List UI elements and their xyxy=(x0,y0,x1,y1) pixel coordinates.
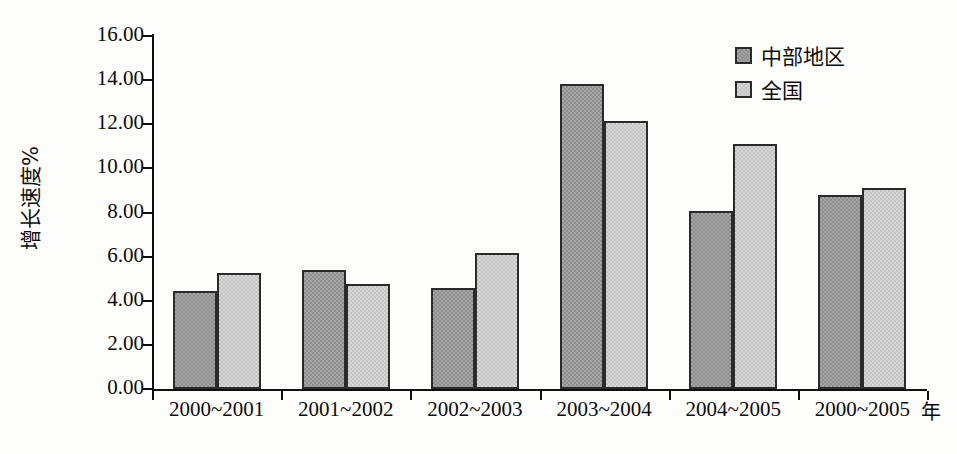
x-axis-tick-label: 2004~2005 xyxy=(669,397,798,422)
bar xyxy=(862,188,906,389)
y-axis-tick-mark xyxy=(143,35,153,37)
bar xyxy=(604,121,648,390)
y-axis-tick-label: 10.00 xyxy=(48,154,144,179)
y-axis-tick-mark xyxy=(143,79,153,81)
bar-chart: 增长速度% 0.002.004.006.008.0010.0012.0014.0… xyxy=(0,0,957,454)
legend-swatch-icon xyxy=(735,47,752,64)
bar xyxy=(302,270,346,389)
y-axis-title: 增长速度% xyxy=(14,118,48,278)
y-axis-tick-mark xyxy=(143,300,153,302)
y-axis-tick-label: 4.00 xyxy=(48,287,144,312)
y-axis-tick-mark xyxy=(143,123,153,125)
x-axis-tick-label: 2000~2005 xyxy=(798,397,927,422)
y-axis-tick-mark xyxy=(143,256,153,258)
legend: 中部地区全国 xyxy=(735,38,845,106)
y-axis-tick-label: 6.00 xyxy=(48,243,144,268)
y-axis-tick-label: 16.00 xyxy=(48,22,144,47)
y-axis-tick-label: 12.00 xyxy=(48,110,144,135)
y-axis-tick-label: 14.00 xyxy=(48,66,144,91)
bar xyxy=(346,284,390,389)
x-axis-tick-label: 2002~2003 xyxy=(410,397,539,422)
bar xyxy=(560,84,604,389)
x-axis-unit-label: 年 xyxy=(921,396,941,425)
y-axis-tick-mark xyxy=(143,344,153,346)
bar xyxy=(173,291,217,389)
y-axis-tick-mark xyxy=(143,388,153,390)
bar xyxy=(217,273,261,389)
legend-item: 中部地区 xyxy=(735,38,845,72)
bar xyxy=(818,195,862,389)
legend-item-label: 中部地区 xyxy=(761,40,845,70)
legend-item: 全国 xyxy=(735,72,845,106)
legend-item-label: 全国 xyxy=(761,74,803,104)
x-axis-tick-label: 2001~2002 xyxy=(281,397,410,422)
x-axis-tick-label: 2000~2001 xyxy=(152,397,281,422)
bar xyxy=(689,211,733,390)
legend-swatch-icon xyxy=(735,81,752,98)
y-axis-tick-label: 8.00 xyxy=(48,199,144,224)
bar xyxy=(475,253,519,389)
y-axis-tick-mark xyxy=(143,212,153,214)
bar xyxy=(431,288,475,389)
x-axis-tick-label: 2003~2004 xyxy=(540,397,669,422)
y-axis-tick-label: 0.00 xyxy=(48,375,144,400)
y-axis-tick-label: 2.00 xyxy=(48,331,144,356)
bar xyxy=(733,144,777,389)
y-axis-tick-mark xyxy=(143,167,153,169)
y-axis-tick-labels: 0.002.004.006.008.0010.0012.0014.0016.00 xyxy=(48,0,144,454)
